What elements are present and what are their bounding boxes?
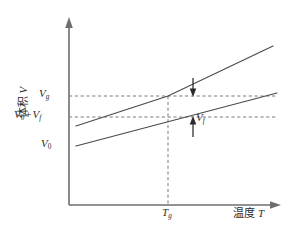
y-tick-label-vg-var: V xyxy=(39,87,46,99)
volume-temperature-figure: Vg V0+Vf V0 Tg Vf 体积V 温度T xyxy=(0,0,297,232)
y-axis-group xyxy=(65,17,73,205)
annotation-label-vf-subscript: f xyxy=(203,117,205,125)
annotation-label-vf: Vf xyxy=(196,112,205,125)
x-tick-label-tg-subscript: g xyxy=(168,212,172,220)
series-line-total-volume xyxy=(76,46,273,126)
y-axis-title: 体积V xyxy=(18,71,29,135)
annotation-label-vf-var: V xyxy=(196,111,203,123)
x-axis-title-text: 温度 xyxy=(233,207,255,220)
y-tick-label-v0-var: V xyxy=(41,137,48,149)
y-tick-label-vg: Vg xyxy=(39,88,49,101)
x-axis-title-var: T xyxy=(255,207,264,219)
y-axis-title-var: V xyxy=(17,87,29,97)
annotation-vf-arrow-upper xyxy=(190,78,197,97)
y-tick-label-vg-subscript: g xyxy=(46,93,50,101)
series-line-occupied-volume xyxy=(76,93,277,146)
y-tick-label-v0-plus-vf-sub2: f xyxy=(39,114,41,122)
x-tick-label-tg: Tg xyxy=(162,207,172,220)
plot-canvas xyxy=(0,0,297,232)
y-axis-arrow-icon xyxy=(65,17,73,28)
x-axis-arrow-icon xyxy=(270,201,281,209)
x-axis-title: 温度T xyxy=(233,208,264,219)
y-tick-label-v0-subscript: 0 xyxy=(48,143,52,151)
y-axis-title-text: 体积 xyxy=(17,96,30,118)
y-tick-label-v0: V0 xyxy=(41,138,51,151)
